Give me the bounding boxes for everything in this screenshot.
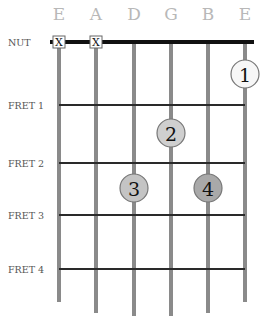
fret-label: FRET 3	[8, 210, 44, 221]
string-name-label: E	[239, 4, 251, 24]
string-name-label: G	[164, 4, 178, 24]
mute-x-icon: X	[92, 36, 100, 49]
string-name-label: D	[127, 4, 141, 24]
mute-x-icon: X	[55, 36, 63, 49]
nut: NUT	[8, 37, 254, 48]
finger-number: 1	[239, 64, 251, 86]
finger-number: 2	[165, 123, 177, 145]
string-names: EADGBE	[53, 4, 251, 24]
finger-number: 4	[202, 178, 214, 200]
nut-label: NUT	[8, 37, 31, 48]
chord-diagram: EADGBE FRET 1FRET 2FRET 3FRET 4 NUT XX 1…	[0, 0, 267, 320]
string-name-label: A	[89, 4, 103, 24]
string-name-label: E	[53, 4, 65, 24]
finger-number: 3	[128, 178, 140, 200]
finger-positions: 1234	[120, 60, 259, 202]
fret-label: FRET 2	[8, 158, 44, 169]
fret-label: FRET 4	[8, 264, 44, 275]
string-name-label: B	[202, 4, 215, 24]
fret-label: FRET 1	[8, 100, 44, 111]
